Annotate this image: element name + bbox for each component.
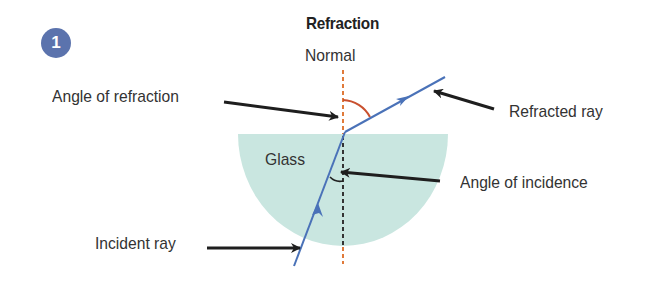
diagram-title: Refraction [306,14,379,34]
refracted-ray-arrowhead-icon [396,96,409,106]
angle-of-refraction-pointer-arrow [224,102,338,117]
incident-ray-label: Incident ray [95,234,176,254]
angle-of-refraction-label: Angle of refraction [52,87,179,107]
refraction-angle-arc [343,100,370,117]
refracted-ray-label: Refracted ray [509,102,603,122]
glass-label: Glass [265,150,305,170]
refraction-diagram: 1 Refraction Normal Angle of refraction … [0,0,663,284]
figure-number-badge: 1 [41,28,71,58]
normal-label: Normal [305,46,355,66]
refracted-ray-pointer-arrow [434,91,494,109]
angle-of-incidence-label: Angle of incidence [460,173,588,193]
